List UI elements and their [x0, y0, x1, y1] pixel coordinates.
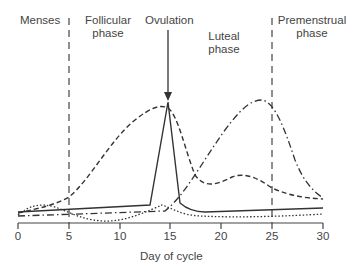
x-axis-label: Day of cycle	[140, 250, 203, 263]
x-tick-20: 20	[215, 230, 228, 242]
x-tick-10: 10	[114, 230, 127, 242]
x-tick-5: 5	[66, 230, 72, 242]
x-tick-30: 30	[317, 230, 330, 242]
x-tick-15: 15	[164, 230, 177, 242]
x-tick-0: 0	[15, 230, 21, 242]
x-tick-25: 25	[266, 230, 279, 242]
plot-area	[0, 0, 362, 271]
